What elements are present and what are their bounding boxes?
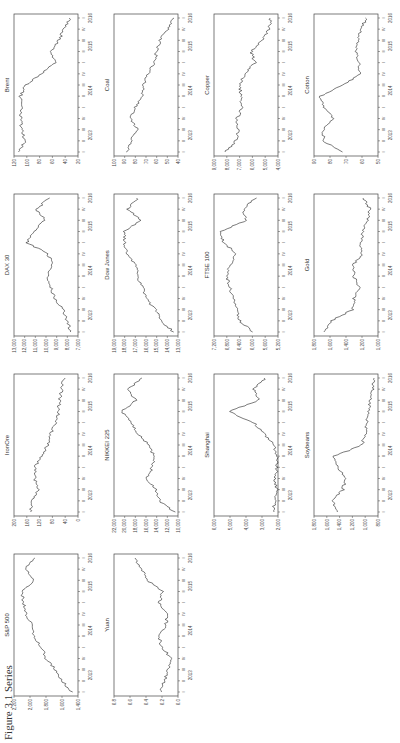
x-tick-quarter: II xyxy=(182,455,186,457)
chart-title: Coal xyxy=(104,79,110,91)
x-tick-year: 2014 xyxy=(388,85,393,96)
x-tick-year: 2016 xyxy=(288,372,293,383)
x-tick-quarter: III xyxy=(282,128,286,131)
x-tick-quarter: IV xyxy=(182,567,186,571)
y-tick-label: 40 xyxy=(63,519,68,525)
x-tick-quarter: III xyxy=(182,83,186,86)
x-tick-year: 2014 xyxy=(88,445,93,456)
x-tick-quarter: II xyxy=(382,320,386,322)
chart-title: Brent xyxy=(4,77,10,92)
x-tick-quarter: II xyxy=(182,275,186,277)
x-tick-quarter: I xyxy=(182,422,186,423)
x-tick-quarter: II xyxy=(382,50,386,52)
x-tick-year: 2013 xyxy=(88,490,93,501)
x-tick-quarter: III xyxy=(82,83,86,86)
x-tick-quarter: IV xyxy=(182,252,186,256)
x-tick-quarter: I xyxy=(82,467,86,468)
x-tick-quarter: I xyxy=(182,467,186,468)
x-tick-quarter: IV xyxy=(182,656,186,660)
x-tick-quarter: III xyxy=(382,219,386,222)
x-tick-quarter: I xyxy=(282,62,286,63)
y-tick-label: 40 xyxy=(63,159,68,165)
x-tick-quarter: IV xyxy=(182,387,186,391)
x-tick-quarter: I xyxy=(182,17,186,18)
x-tick-year: 2013 xyxy=(188,130,193,141)
chart-shanghai: Shanghai6,0005,0004,0003,0002,000IIIIIII… xyxy=(200,368,300,546)
y-tick-label: 1,800 xyxy=(44,699,49,711)
x-tick-quarter: IV xyxy=(282,252,286,256)
y-tick-label: 7,200 xyxy=(212,339,217,351)
y-tick-label: 6,000 xyxy=(250,159,255,171)
series-line xyxy=(319,18,366,152)
y-tick-label: 1,400 xyxy=(344,339,349,351)
x-tick-quarter: I xyxy=(382,62,386,63)
x-tick-quarter: IV xyxy=(382,207,386,211)
x-tick-year: 2013 xyxy=(188,310,193,321)
y-tick-label: 19,000 xyxy=(112,339,117,353)
figure-caption: Figure 3.1 Series xyxy=(2,660,22,740)
x-tick-quarter: II xyxy=(282,140,286,142)
x-tick-quarter: III xyxy=(82,443,86,446)
series-line xyxy=(220,198,256,332)
x-tick-quarter: II xyxy=(82,410,86,412)
x-tick-year: 2015 xyxy=(288,400,293,411)
x-tick-quarter: III xyxy=(82,623,86,626)
x-tick-year: 2015 xyxy=(188,400,193,411)
x-tick-year: 2013 xyxy=(288,490,293,501)
x-tick-quarter: II xyxy=(82,140,86,142)
y-tick-label: 18,000 xyxy=(122,339,127,353)
y-tick-label: 10,000 xyxy=(176,519,181,533)
x-tick-year: 2014 xyxy=(388,265,393,276)
x-tick-quarter: III xyxy=(282,83,286,86)
y-tick-label: 8,000 xyxy=(225,159,230,171)
x-tick-quarter: III xyxy=(382,263,386,266)
y-tick-label: 17,000 xyxy=(133,339,138,353)
x-tick-quarter: III xyxy=(282,219,286,222)
figure-caption-text: Figure 3.1 Series xyxy=(2,665,14,740)
y-tick-label: 13,000 xyxy=(12,339,17,353)
x-tick-quarter: IV xyxy=(182,432,186,436)
x-tick-quarter: III xyxy=(182,219,186,222)
x-tick-quarter: IV xyxy=(282,116,286,120)
x-tick-quarter: I xyxy=(82,242,86,243)
chart-nikkei-225: NIKKEI 22522,00020,00018,00016,00014,000… xyxy=(100,368,200,546)
x-tick-quarter: I xyxy=(282,197,286,198)
y-tick-label: 80 xyxy=(37,159,42,165)
y-tick-label: 7,000 xyxy=(76,339,81,351)
x-tick-quarter: I xyxy=(382,467,386,468)
x-tick-quarter: I xyxy=(82,197,86,198)
x-tick-quarter: II xyxy=(82,635,86,637)
x-tick-quarter: III xyxy=(82,579,86,582)
x-tick-quarter: I xyxy=(282,331,286,332)
x-tick-year: 2016 xyxy=(288,192,293,203)
x-tick-quarter: III xyxy=(182,128,186,131)
x-tick-year: 2014 xyxy=(288,445,293,456)
x-tick-quarter: II xyxy=(282,320,286,322)
x-tick-quarter: III xyxy=(182,579,186,582)
y-tick-label: 1,000 xyxy=(363,519,368,531)
x-tick-quarter: III xyxy=(382,399,386,402)
x-tick-quarter: I xyxy=(82,691,86,692)
y-tick-label: 50 xyxy=(165,159,170,165)
y-tick-label: 20,000 xyxy=(122,519,127,533)
x-tick-quarter: I xyxy=(182,197,186,198)
y-tick-label: 13,000 xyxy=(176,339,181,353)
x-tick-quarter: I xyxy=(382,287,386,288)
x-tick-year: 2016 xyxy=(188,372,193,383)
chart-gold: Gold1,8001,6001,4001,2001,000IIIIIIIVIII… xyxy=(300,188,400,366)
x-tick-quarter: IV xyxy=(382,72,386,76)
x-tick-quarter: III xyxy=(82,263,86,266)
y-tick-label: 1,400 xyxy=(76,699,81,711)
x-tick-year: 2014 xyxy=(188,625,193,636)
y-tick-label: 6.2 xyxy=(160,699,165,706)
x-tick-quarter: III xyxy=(382,128,386,131)
y-tick-label: 0 xyxy=(76,519,81,522)
y-tick-label: 90 xyxy=(312,159,317,165)
y-tick-label: 1,400 xyxy=(337,519,342,531)
x-tick-quarter: II xyxy=(82,500,86,502)
y-tick-label: 7,000 xyxy=(237,159,242,171)
x-tick-quarter: III xyxy=(282,263,286,266)
x-tick-year: 2013 xyxy=(288,310,293,321)
x-tick-quarter: II xyxy=(382,275,386,277)
series-line xyxy=(332,378,375,512)
